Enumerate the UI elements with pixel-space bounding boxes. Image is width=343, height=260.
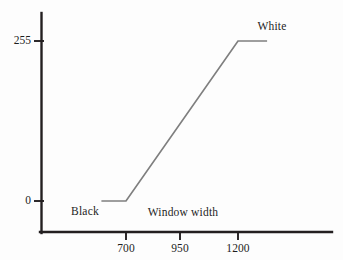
x-tick-label-700: 700 xyxy=(106,243,146,255)
black-region-label: Black xyxy=(64,206,106,218)
chart-container: 255 0 700 950 1200 Black Window width Wh… xyxy=(0,0,343,260)
chart-canvas xyxy=(0,0,343,260)
y-tick-label-0: 0 xyxy=(5,195,31,207)
window-width-label: Window width xyxy=(139,207,227,219)
white-region-label: White xyxy=(249,21,295,33)
y-tick-label-255: 255 xyxy=(5,35,31,47)
data-series-line xyxy=(101,41,267,201)
x-tick-label-1200: 1200 xyxy=(216,243,260,255)
x-tick-label-950: 950 xyxy=(160,243,200,255)
